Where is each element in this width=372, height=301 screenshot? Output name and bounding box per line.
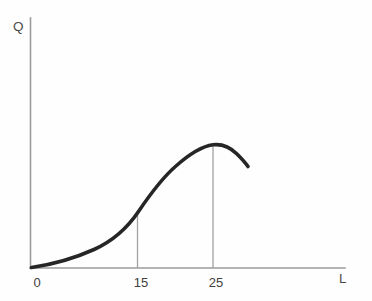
x-tick-label-25: 25	[209, 276, 223, 289]
y-axis-title: Q	[13, 20, 24, 34]
total-product-curve	[32, 145, 249, 268]
x-axis-title: L	[339, 272, 347, 286]
x-tick-label-15: 15	[134, 276, 148, 289]
chart-canvas: Q L 0 15 25	[0, 0, 372, 301]
chart-plot-area	[0, 0, 372, 301]
x-tick-label-0: 0	[33, 276, 40, 289]
